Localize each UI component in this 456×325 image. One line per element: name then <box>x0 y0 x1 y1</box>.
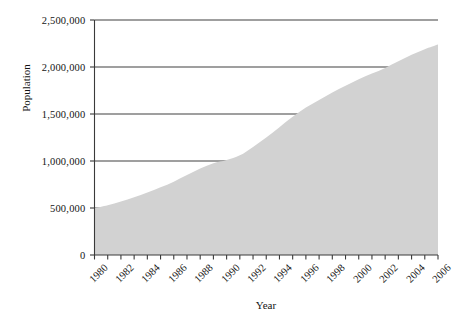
y-tick-marks-group <box>90 20 95 255</box>
y-tick-label: 500,000 <box>0 203 86 214</box>
area-series-group <box>95 44 439 255</box>
y-axis-title: Population <box>20 38 32 138</box>
x-tick-marks-group <box>95 255 439 260</box>
population-area-path <box>95 44 439 255</box>
y-tick-label: 1,500,000 <box>0 109 86 120</box>
y-tick-label: 0 <box>0 250 86 261</box>
population-area-chart: 0500,0001,000,0001,500,0002,000,0002,500… <box>0 0 456 325</box>
x-axis-title: Year <box>94 299 438 311</box>
y-tick-label: 1,000,000 <box>0 156 86 167</box>
y-tick-label: 2,000,000 <box>0 62 86 73</box>
y-tick-label: 2,500,000 <box>0 15 86 26</box>
